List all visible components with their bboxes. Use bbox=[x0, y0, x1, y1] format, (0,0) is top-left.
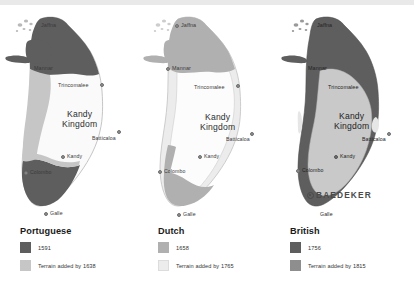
map-label-batticaloa: Batticaloa bbox=[92, 136, 116, 141]
islets-group bbox=[16, 20, 33, 32]
baedeker-watermark-text: BAEDEKER bbox=[316, 190, 372, 200]
map-label-jaffna: Jaffna bbox=[41, 23, 56, 28]
map-label-trincomalee: Trincomalee bbox=[58, 83, 89, 88]
legend-swatch-1591 bbox=[20, 242, 31, 253]
legend-dutch: Dutch 1658 Terrain added by 1765 bbox=[158, 226, 276, 278]
legend-row-portuguese-1591: 1591 bbox=[20, 242, 138, 253]
map-label-mannar: Mannar bbox=[308, 66, 327, 71]
kingdom-line-1: Kandy bbox=[205, 112, 230, 122]
legend-label-1756: 1756 bbox=[308, 245, 321, 251]
legend-title-dutch: Dutch bbox=[158, 226, 276, 236]
legend-row-portuguese-1638: Terrain added by 1638 bbox=[20, 260, 138, 271]
islets-group bbox=[292, 20, 309, 32]
legend-row-british-1756: 1756 bbox=[290, 242, 408, 253]
map-label-jaffna: Jaffna bbox=[181, 23, 196, 28]
city-dot-colombo bbox=[158, 170, 162, 174]
city-dot-batticaloa bbox=[117, 130, 121, 134]
legend-label-1591: 1591 bbox=[38, 245, 51, 251]
legend-title-portuguese: Portuguese bbox=[20, 226, 138, 236]
city-dot-trincomalee bbox=[236, 84, 240, 88]
kingdom-line-1: Kandy bbox=[67, 109, 92, 119]
legend-swatch-1765 bbox=[158, 260, 169, 271]
city-dot-mannar bbox=[166, 67, 170, 71]
map-label-kandy: Kandy bbox=[204, 154, 219, 159]
panel-dutch: Jaffna Mannar Trincomalee Kandy Kingdom … bbox=[138, 5, 276, 286]
city-dot-batticaloa bbox=[387, 132, 391, 136]
map-label-kandy: Kandy bbox=[67, 154, 82, 159]
map-label-batticaloa: Batticaloa bbox=[362, 137, 386, 142]
map-label-galle: Galle bbox=[50, 211, 63, 216]
map-label-trincomalee: Trincomalee bbox=[328, 85, 359, 90]
map-label-kandy-kingdom: Kandy Kingdom bbox=[334, 111, 369, 131]
city-dot-galle bbox=[177, 213, 181, 217]
city-dot-galle bbox=[44, 212, 48, 216]
baedeker-logo-icon bbox=[307, 192, 314, 199]
map-label-mannar: Mannar bbox=[34, 66, 53, 71]
city-dot-jaffna bbox=[175, 24, 179, 28]
legend-label-1765: Terrain added by 1765 bbox=[176, 263, 234, 269]
kingdom-line-2: Kingdom bbox=[62, 119, 97, 129]
map-label-trincomalee: Trincomalee bbox=[194, 85, 225, 90]
kingdom-line-2: Kingdom bbox=[334, 121, 369, 131]
map-label-galle: Galle bbox=[320, 212, 333, 217]
kingdom-line-1: Kandy bbox=[339, 111, 364, 121]
legend-label-1638: Terrain added by 1638 bbox=[38, 263, 96, 269]
islets-group bbox=[154, 20, 171, 32]
legend-row-dutch-1765: Terrain added by 1765 bbox=[158, 260, 276, 271]
panel-british: Jaffna Mannar Trincomalee Kandy Kingdom … bbox=[276, 5, 414, 286]
legend-label-1815: Terrain added by 1815 bbox=[308, 263, 366, 269]
map-label-colombo: Colombo bbox=[30, 170, 51, 175]
map-panels-container: Jaffna Mannar Trincomalee Kandy Kingdom … bbox=[0, 5, 414, 286]
map-label-jaffna: Jaffna bbox=[317, 23, 332, 28]
map-label-kandy-kingdom: Kandy Kingdom bbox=[62, 109, 97, 129]
map-label-kandy: Kandy bbox=[340, 154, 355, 159]
legend-swatch-1658 bbox=[158, 242, 169, 253]
map-label-colombo: Colombo bbox=[164, 169, 185, 174]
city-dot-colombo bbox=[24, 171, 28, 175]
map-label-batticaloa: Batticaloa bbox=[226, 137, 250, 142]
panel-portuguese: Jaffna Mannar Trincomalee Kandy Kingdom … bbox=[0, 5, 138, 286]
city-dot-kandy bbox=[198, 155, 202, 159]
legend-swatch-1756 bbox=[290, 242, 301, 253]
map-label-kandy-kingdom: Kandy Kingdom bbox=[200, 112, 235, 132]
legend-title-british: British bbox=[290, 226, 408, 236]
legend-label-1658: 1658 bbox=[176, 245, 189, 251]
mannar-spit-shape bbox=[281, 56, 307, 64]
city-dot-kandy bbox=[61, 155, 65, 159]
map-label-colombo: Colombo bbox=[302, 168, 323, 173]
legend-row-british-1815: Terrain added by 1815 bbox=[290, 260, 408, 271]
city-dot-colombo bbox=[296, 169, 300, 173]
west-bay-notch bbox=[298, 111, 302, 133]
city-dot-batticaloa bbox=[250, 132, 254, 136]
kingdom-line-2: Kingdom bbox=[200, 122, 235, 132]
baedeker-watermark: BAEDEKER bbox=[307, 190, 372, 200]
legend-portuguese: Portuguese 1591 Terrain added by 1638 bbox=[20, 226, 138, 278]
map-label-mannar: Mannar bbox=[172, 66, 191, 71]
map-label-galle: Galle bbox=[183, 212, 196, 217]
city-dot-kandy bbox=[334, 155, 338, 159]
legend-swatch-1638 bbox=[20, 260, 31, 271]
legend-swatch-1815 bbox=[290, 260, 301, 271]
city-dot-trincomalee bbox=[100, 83, 104, 87]
legend-british: British 1756 Terrain added by 1815 bbox=[290, 226, 408, 278]
legend-row-dutch-1658: 1658 bbox=[158, 242, 276, 253]
